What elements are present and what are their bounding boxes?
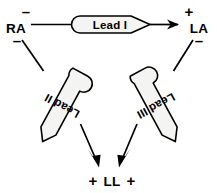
la-plus-top-sign: + [185, 3, 194, 20]
lead-diagram-canvas: Lead I Lead II [0, 0, 217, 193]
lead-3-group: Lead III [117, 40, 193, 168]
ra-minus-bottom-sign: – [13, 32, 21, 49]
lead-1-label: Lead I [93, 19, 127, 31]
node-ll-group: + LL + [89, 172, 136, 189]
lead-2-group: Lead II [22, 40, 101, 168]
node-ra-group: – RA – [6, 3, 30, 49]
lead-3-arrowhead-icon [117, 149, 130, 168]
ra-minus-top-sign: – [22, 3, 30, 20]
ll-plus-left-sign: + [89, 172, 98, 189]
la-minus-bottom-sign: – [195, 32, 203, 49]
ll-plus-right-sign: + [127, 172, 136, 189]
lead-3-shaft-upper [174, 40, 194, 71]
lead-1-group: Lead I [31, 16, 179, 33]
node-ll-label: LL [103, 174, 120, 189]
einthoven-triangle-diagram: Lead I Lead II [0, 0, 217, 193]
lead-2-arrowhead-icon [88, 149, 101, 168]
node-la-group: + LA – [185, 3, 209, 49]
lead-2-shaft-upper [22, 40, 44, 71]
